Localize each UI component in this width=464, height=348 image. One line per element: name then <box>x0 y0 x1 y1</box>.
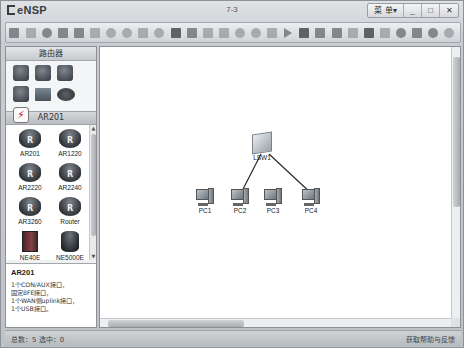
router-icon: R <box>59 129 81 148</box>
pc-icon <box>231 188 249 206</box>
scroll-up-arrow-icon[interactable]: ▲ <box>90 125 96 132</box>
pc-icon <box>302 188 320 206</box>
device-ar3260[interactable]: RAR3260 <box>10 197 50 229</box>
topology-canvas[interactable]: LSW1 PC1 PC2 PC3 PC4 <box>100 47 452 319</box>
delete-icon <box>171 28 181 38</box>
node-pc3[interactable]: PC3 <box>264 188 282 214</box>
minimize-button[interactable]: _ <box>404 4 422 17</box>
undo-button[interactable] <box>106 25 117 41</box>
stop-device-icon <box>299 28 309 38</box>
start-device-button[interactable] <box>283 25 294 41</box>
node-pc2[interactable]: PC2 <box>231 188 249 214</box>
display-interfaces-button[interactable] <box>331 25 342 41</box>
router-category-icon[interactable] <box>13 65 29 81</box>
wlan-category-icon[interactable] <box>57 65 73 81</box>
save-icon <box>58 28 68 38</box>
huawei-site-icon <box>412 28 422 38</box>
device-panel: 路由器 AR201 RAR201 RAR1220 RAR2220 RAR2240… <box>5 46 97 328</box>
help-button[interactable] <box>444 25 455 41</box>
text-icon <box>203 28 213 38</box>
start-device-icon <box>284 28 292 38</box>
device-label: AR1220 <box>58 150 82 157</box>
select-button[interactable] <box>138 25 149 41</box>
category-grid <box>6 61 96 111</box>
node-lsw1[interactable]: LSW1 <box>252 133 272 161</box>
device-list-scrollbar[interactable]: ▲ ▼ <box>89 125 96 260</box>
device-description: AR201 1个CON/AUX接口， 固定8FE接口， 1个WAN侧uplink… <box>6 263 96 327</box>
delete-link-button[interactable] <box>186 25 197 41</box>
grid-icon <box>348 28 358 38</box>
capture-icon <box>315 28 325 38</box>
new-lab-button[interactable] <box>25 25 36 41</box>
scroll-down-arrow-icon[interactable]: ▼ <box>90 253 96 260</box>
new-topology-button[interactable] <box>9 25 20 41</box>
redo-button[interactable] <box>122 25 133 41</box>
display-interfaces-icon <box>332 28 342 38</box>
node-pc1[interactable]: PC1 <box>196 188 214 214</box>
save-button[interactable] <box>57 25 68 41</box>
palette-icon <box>219 28 229 38</box>
cli-button[interactable] <box>380 25 391 41</box>
new-lab-icon <box>26 28 36 38</box>
ne5000e-icon <box>61 231 79 252</box>
topology-button[interactable] <box>363 25 374 41</box>
device-label: AR201 <box>20 150 40 157</box>
move-button[interactable] <box>154 25 165 41</box>
menu-button[interactable]: 菜 单▾ <box>368 4 404 17</box>
forum-button[interactable] <box>396 25 407 41</box>
fit-button[interactable] <box>267 25 278 41</box>
grid-button[interactable] <box>347 25 358 41</box>
select-icon <box>138 28 148 38</box>
maximize-button[interactable]: □ <box>422 4 440 17</box>
zoom-out-icon <box>251 28 261 38</box>
firewall-category-icon[interactable] <box>13 86 29 102</box>
device-ar2240[interactable]: RAR2240 <box>50 163 90 195</box>
delete-button[interactable] <box>170 25 181 41</box>
device-label: AR2240 <box>58 184 82 191</box>
router-icon: R <box>19 163 41 182</box>
canvas-vscroll-thumb[interactable] <box>453 57 460 207</box>
help-feedback-link[interactable]: 获取帮助与反馈 <box>406 334 455 344</box>
device-router[interactable]: RRouter <box>50 197 90 229</box>
device-list: RAR201 RAR1220 RAR2220 RAR2240 RAR3260 R… <box>6 125 96 260</box>
device-ar1220[interactable]: RAR1220 <box>50 129 90 161</box>
pc-icon <box>264 188 282 206</box>
pc-category-icon[interactable] <box>35 88 51 101</box>
node-label: PC2 <box>234 207 247 214</box>
stop-device-button[interactable] <box>299 25 310 41</box>
text-button[interactable] <box>202 25 213 41</box>
device-ne5000e[interactable]: NE5000E <box>50 231 90 260</box>
help-icon <box>444 28 454 38</box>
switch-category-icon[interactable] <box>35 65 51 81</box>
window-controls: 菜 单▾ _ □ ✕ <box>367 3 459 18</box>
canvas-vertical-scrollbar[interactable] <box>451 47 460 319</box>
connection-category-icon[interactable] <box>13 107 29 123</box>
new-topology-icon <box>9 28 19 38</box>
device-label: Router <box>60 218 80 225</box>
palette-button[interactable] <box>218 25 229 41</box>
close-button[interactable]: ✕ <box>440 4 458 17</box>
node-pc4[interactable]: PC4 <box>302 188 320 214</box>
settings-button[interactable] <box>428 25 439 41</box>
device-ar201[interactable]: RAR201 <box>10 129 50 161</box>
forum-icon <box>396 28 406 38</box>
canvas-horizontal-scrollbar[interactable] <box>100 318 452 327</box>
canvas-hscroll-thumb[interactable] <box>108 320 244 327</box>
huawei-site-button[interactable] <box>412 25 423 41</box>
open-button[interactable] <box>41 25 52 41</box>
links-layer <box>100 47 452 319</box>
cloud-category-icon[interactable] <box>57 88 75 101</box>
save-as-button[interactable] <box>73 25 84 41</box>
router-icon: R <box>59 197 81 216</box>
description-line: 1个USB接口。 <box>11 305 91 313</box>
zoom-in-button[interactable] <box>235 25 246 41</box>
capture-button[interactable] <box>315 25 326 41</box>
description-line: 固定8FE接口， <box>11 289 91 297</box>
device-ar2220[interactable]: RAR2220 <box>10 163 50 195</box>
delete-link-icon <box>187 28 197 38</box>
scroll-thumb[interactable] <box>91 134 96 236</box>
print-button[interactable] <box>90 25 101 41</box>
device-ne40e[interactable]: NE40E <box>10 231 50 260</box>
zoom-out-button[interactable] <box>251 25 262 41</box>
node-label: LSW1 <box>253 154 271 161</box>
